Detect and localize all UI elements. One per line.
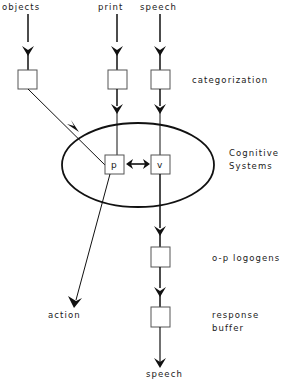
action-path <box>68 174 110 308</box>
arrow-diagonal-icon <box>67 120 79 132</box>
stage-label-response: response <box>212 310 259 320</box>
cognitive-model-diagram: objects print speech categorization Cogn… <box>0 0 297 379</box>
print-categorization-box <box>108 70 127 89</box>
stage-label-systems: Systems <box>229 161 273 171</box>
cognitive-systems-ellipse <box>62 123 214 207</box>
stage-label-categorization: categorization <box>192 75 268 85</box>
bidirectional-arrow-icon <box>126 159 150 169</box>
print-path <box>108 14 127 155</box>
stage-label-buffer: buffer <box>212 323 244 333</box>
stage-label-cognitive: Cognitive <box>229 148 279 158</box>
node-p-label: p <box>111 160 117 170</box>
node-v-label: v <box>157 160 163 170</box>
input-label-print: print <box>98 2 123 12</box>
input-label-speech: speech <box>140 2 177 12</box>
stage-label-op-logogens: o-p logogens <box>212 253 280 263</box>
input-label-objects: objects <box>2 2 40 12</box>
speech-categorization-box <box>151 70 170 89</box>
objects-categorization-box <box>18 70 37 89</box>
speech-path <box>151 14 170 155</box>
output-label-speech: speech <box>146 369 183 379</box>
op-logogens-box <box>151 247 170 267</box>
response-buffer-box <box>151 307 170 327</box>
arrow-down-icon <box>68 296 82 308</box>
objects-path <box>18 14 108 168</box>
output-label-action: action <box>48 310 81 320</box>
